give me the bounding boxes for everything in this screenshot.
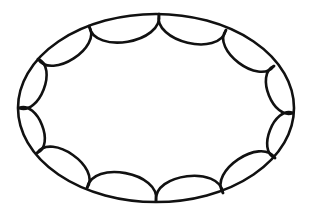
scallop-arc xyxy=(89,14,159,43)
scallop-arc xyxy=(37,147,90,188)
scallop-arc xyxy=(156,176,223,201)
scalloped-ellipse-diagram xyxy=(0,0,311,213)
scallop-arc xyxy=(266,66,293,114)
scallop-arc xyxy=(87,172,156,201)
outer-ellipse xyxy=(18,14,294,202)
scallop-arcs xyxy=(19,14,293,201)
scallop-arc xyxy=(38,26,91,66)
